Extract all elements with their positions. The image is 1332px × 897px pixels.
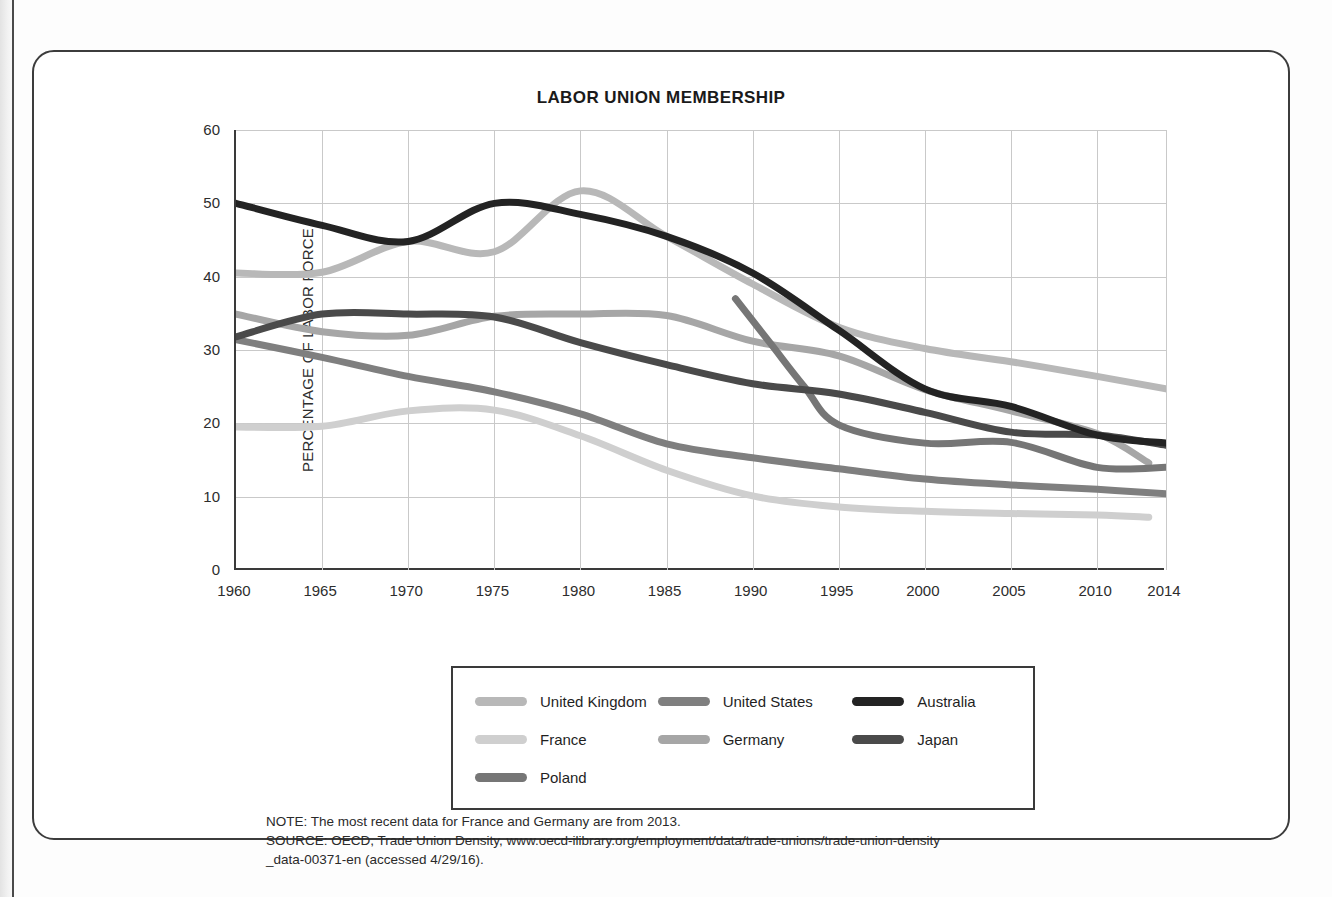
series-line-poland	[735, 299, 1166, 470]
legend-swatch-icon	[475, 697, 527, 706]
legend-label: Japan	[917, 731, 958, 748]
legend-row: United KingdomUnited StatesAustralia	[453, 682, 1033, 720]
y-tick-label: 0	[160, 561, 220, 578]
y-tick-label: 30	[160, 341, 220, 358]
legend-item-australia[interactable]: Australia	[852, 693, 1033, 710]
x-tick-label: 2005	[979, 582, 1039, 599]
note-line: NOTE: The most recent data for France an…	[266, 812, 1166, 831]
legend-item-japan[interactable]: Japan	[852, 731, 1033, 748]
source-line: SOURCE: OECD, Trade Union Density, www.o…	[266, 831, 1166, 850]
legend-swatch-icon	[475, 735, 527, 744]
legend-item-united-states[interactable]: United States	[658, 693, 853, 710]
legend-label: Poland	[540, 769, 587, 786]
chart-title: LABOR UNION MEMBERSHIP	[34, 88, 1288, 108]
x-tick-label: 2014	[1134, 582, 1194, 599]
x-tick-label: 1995	[807, 582, 867, 599]
y-tick-label: 60	[160, 121, 220, 138]
source-line-continued: _data-00371-en (accessed 4/29/16).	[266, 850, 1166, 869]
x-tick-label: 1990	[721, 582, 781, 599]
legend-swatch-icon	[475, 773, 527, 782]
legend-swatch-icon	[658, 735, 710, 744]
legend-label: United Kingdom	[540, 693, 647, 710]
legend-row: Poland	[453, 758, 1033, 796]
x-tick-label: 1980	[548, 582, 608, 599]
series-line-france	[236, 408, 1149, 517]
y-tick-label: 10	[160, 488, 220, 505]
legend-item-united-kingdom[interactable]: United Kingdom	[453, 693, 658, 710]
legend-label: United States	[723, 693, 813, 710]
chart-footnotes: NOTE: The most recent data for France an…	[266, 812, 1166, 869]
legend-swatch-icon	[658, 697, 710, 706]
plot-area: PERCENTAGE OF LABOR FORCE 0102030405060 …	[234, 130, 1164, 570]
x-tick-label: 1985	[635, 582, 695, 599]
legend-label: Australia	[917, 693, 975, 710]
legend-swatch-icon	[852, 697, 904, 706]
page-background: LABOR UNION MEMBERSHIP PERCENTAGE OF LAB…	[0, 0, 1332, 897]
legend-item-france[interactable]: France	[453, 731, 658, 748]
x-tick-label: 1975	[462, 582, 522, 599]
chart-card: LABOR UNION MEMBERSHIP PERCENTAGE OF LAB…	[32, 50, 1290, 840]
gridline-vertical	[1166, 130, 1167, 570]
x-tick-label: 2010	[1065, 582, 1125, 599]
y-tick-label: 50	[160, 194, 220, 211]
legend-swatch-icon	[852, 735, 904, 744]
y-tick-label: 20	[160, 414, 220, 431]
y-tick-label: 40	[160, 268, 220, 285]
legend-row: FranceGermanyJapan	[453, 720, 1033, 758]
legend-label: Germany	[723, 731, 785, 748]
legend-label: France	[540, 731, 587, 748]
x-tick-label: 1965	[290, 582, 350, 599]
chart-legend: United KingdomUnited StatesAustraliaFran…	[451, 666, 1035, 810]
series-line-japan	[236, 312, 1166, 445]
x-tick-label: 1960	[204, 582, 264, 599]
series-line-united-kingdom	[236, 191, 1166, 389]
page-edge-rule	[12, 0, 14, 897]
series-lines	[236, 130, 1166, 570]
plot-frame	[234, 130, 1164, 570]
x-tick-label: 2000	[893, 582, 953, 599]
x-tick-label: 1970	[376, 582, 436, 599]
legend-item-germany[interactable]: Germany	[658, 731, 853, 748]
legend-item-poland[interactable]: Poland	[453, 769, 659, 786]
